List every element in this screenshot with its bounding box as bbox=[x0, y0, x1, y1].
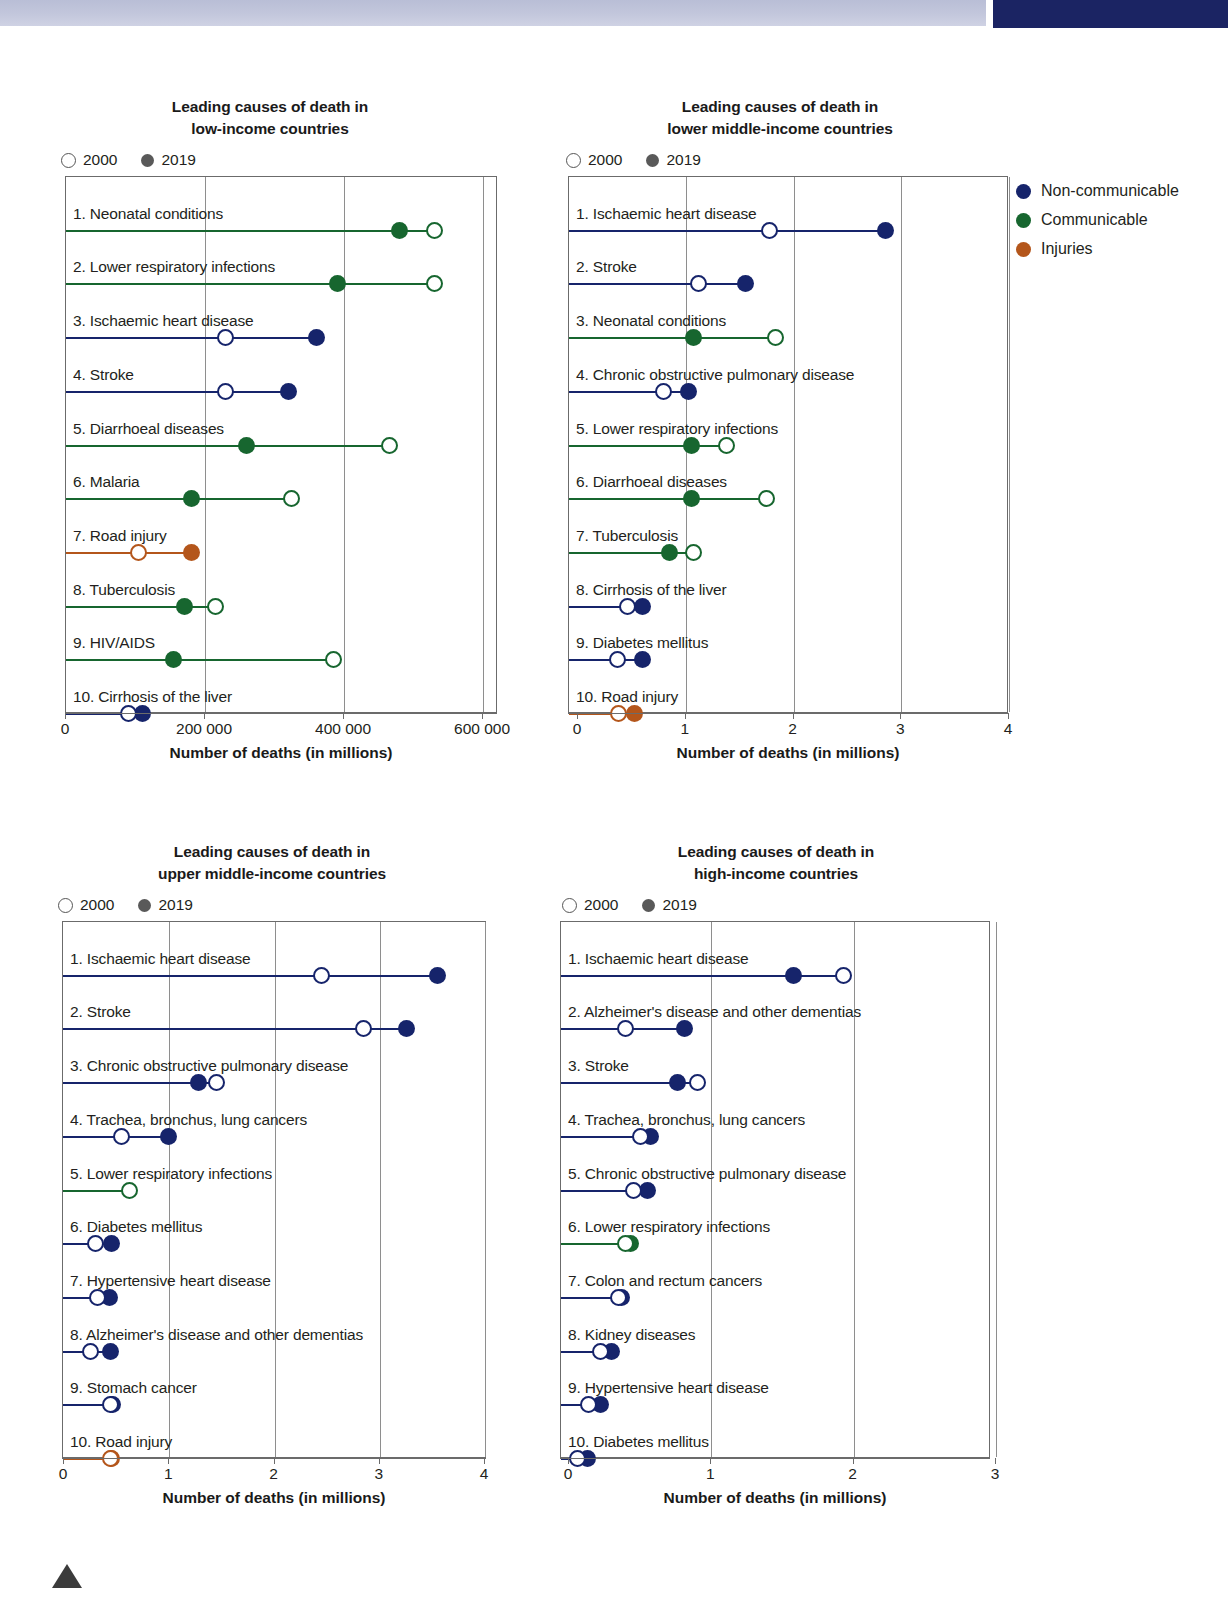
legend-color-dot-icon bbox=[1016, 184, 1031, 199]
datapoint-2000[interactable] bbox=[130, 544, 147, 561]
row-label: 5. Lower respiratory infections bbox=[70, 1165, 272, 1183]
datapoint-2000[interactable] bbox=[102, 1396, 119, 1413]
open-circle-icon bbox=[58, 898, 73, 913]
datapoint-2000[interactable] bbox=[217, 329, 234, 346]
row-label: 7. Road injury bbox=[73, 527, 167, 545]
datapoint-2019[interactable] bbox=[683, 437, 700, 454]
datapoint-2000[interactable] bbox=[718, 437, 735, 454]
chart-title-line-2: upper middle-income countries bbox=[52, 863, 492, 885]
datapoint-2019[interactable] bbox=[238, 437, 255, 454]
x-axis-tick bbox=[204, 713, 205, 719]
row-cause-label: Tuberculosis bbox=[90, 581, 176, 598]
year-legend-2000[interactable]: 2000 bbox=[566, 151, 622, 169]
datapoint-2000[interactable] bbox=[609, 651, 626, 668]
datapoint-2000[interactable] bbox=[82, 1343, 99, 1360]
row-rank: 5. bbox=[568, 1165, 581, 1182]
open-circle-icon bbox=[562, 898, 577, 913]
datapoint-2000[interactable] bbox=[767, 329, 784, 346]
datapoint-2000[interactable] bbox=[758, 490, 775, 507]
datapoint-2000[interactable] bbox=[313, 967, 330, 984]
datapoint-2019[interactable] bbox=[391, 222, 408, 239]
datapoint-2019[interactable] bbox=[676, 1020, 693, 1037]
datapoint-2000[interactable] bbox=[207, 598, 224, 615]
row-cause-label: Trachea, bronchus, lung cancers bbox=[585, 1111, 806, 1128]
datapoint-2019[interactable] bbox=[634, 598, 651, 615]
datapoint-2000[interactable] bbox=[655, 383, 672, 400]
datapoint-2000[interactable] bbox=[426, 222, 443, 239]
datapoint-2000[interactable] bbox=[761, 222, 778, 239]
x-axis-tick bbox=[65, 713, 66, 719]
datapoint-2019[interactable] bbox=[183, 490, 200, 507]
datapoint-2019[interactable] bbox=[165, 651, 182, 668]
year-legend-2000[interactable]: 2000 bbox=[58, 896, 114, 914]
datapoint-2019[interactable] bbox=[683, 490, 700, 507]
datapoint-2000[interactable] bbox=[355, 1020, 372, 1037]
datapoint-2019[interactable] bbox=[877, 222, 894, 239]
x-axis-tick-label: 4 bbox=[480, 1465, 489, 1483]
datapoint-2000[interactable] bbox=[632, 1128, 649, 1145]
year-legend-2019[interactable]: 2019 bbox=[138, 896, 192, 914]
year-legend-2019[interactable]: 2019 bbox=[646, 151, 700, 169]
datapoint-2019[interactable] bbox=[669, 1074, 686, 1091]
datapoint-2019[interactable] bbox=[183, 544, 200, 561]
legend-item-label: Non-communicable bbox=[1041, 182, 1179, 200]
datapoint-2019[interactable] bbox=[160, 1128, 177, 1145]
row-cause-label: Hypertensive heart disease bbox=[87, 1272, 271, 1289]
year-legend-2000[interactable]: 2000 bbox=[61, 151, 117, 169]
row-label: 10. Road injury bbox=[576, 688, 678, 706]
datapoint-2000[interactable] bbox=[625, 1182, 642, 1199]
row-rank: 10. bbox=[568, 1433, 589, 1450]
row-cause-label: Kidney diseases bbox=[585, 1326, 696, 1343]
datapoint-2019[interactable] bbox=[102, 1343, 119, 1360]
datapoint-2019[interactable] bbox=[429, 967, 446, 984]
row-cause-label: Alzheimer's disease and other dementias bbox=[86, 1326, 363, 1343]
datapoint-2019[interactable] bbox=[280, 383, 297, 400]
plot-area: 1. Neonatal conditions2. Lower respirato… bbox=[65, 176, 497, 713]
datapoint-2000[interactable] bbox=[283, 490, 300, 507]
x-axis-tick-label: 3 bbox=[991, 1465, 1000, 1483]
year-legend-2019[interactable]: 2019 bbox=[141, 151, 195, 169]
datapoint-2000[interactable] bbox=[217, 383, 234, 400]
chart-title: Leading causes of death inlower middle-i… bbox=[560, 96, 1000, 140]
filled-circle-icon bbox=[141, 154, 154, 167]
datapoint-2019[interactable] bbox=[190, 1074, 207, 1091]
row-label: 10. Road injury bbox=[70, 1433, 172, 1451]
datapoint-2019[interactable] bbox=[661, 544, 678, 561]
datapoint-2019[interactable] bbox=[308, 329, 325, 346]
row-label: 9. Diabetes mellitus bbox=[576, 634, 708, 652]
datapoint-2019[interactable] bbox=[685, 329, 702, 346]
x-axis-tick-label: 4 bbox=[1004, 720, 1013, 738]
datapoint-2000[interactable] bbox=[685, 544, 702, 561]
datapoint-2000[interactable] bbox=[617, 1020, 634, 1037]
datapoint-2019[interactable] bbox=[785, 967, 802, 984]
datapoint-2000[interactable] bbox=[835, 967, 852, 984]
datapoint-2019[interactable] bbox=[329, 275, 346, 292]
datapoint-2000[interactable] bbox=[381, 437, 398, 454]
year-legend-2019[interactable]: 2019 bbox=[642, 896, 696, 914]
row-cause-label: Stomach cancer bbox=[87, 1379, 197, 1396]
datapoint-2019[interactable] bbox=[680, 383, 697, 400]
datapoint-2000[interactable] bbox=[592, 1343, 609, 1360]
row-label: 5. Chronic obstructive pulmonary disease bbox=[568, 1165, 846, 1183]
row-rank: 5. bbox=[70, 1165, 83, 1182]
datapoint-2000[interactable] bbox=[208, 1074, 225, 1091]
row-connector-line bbox=[569, 230, 885, 232]
datapoint-2019[interactable] bbox=[634, 651, 651, 668]
row-label: 8. Tuberculosis bbox=[73, 581, 175, 599]
datapoint-2000[interactable] bbox=[426, 275, 443, 292]
datapoint-2019[interactable] bbox=[103, 1235, 120, 1252]
datapoint-2000[interactable] bbox=[113, 1128, 130, 1145]
datapoint-2000[interactable] bbox=[689, 1074, 706, 1091]
datapoint-2000[interactable] bbox=[325, 651, 342, 668]
datapoint-2000[interactable] bbox=[619, 598, 636, 615]
datapoint-2019[interactable] bbox=[737, 275, 754, 292]
datapoint-2000[interactable] bbox=[121, 1182, 138, 1199]
datapoint-2000[interactable] bbox=[690, 275, 707, 292]
year-legend-2000[interactable]: 2000 bbox=[562, 896, 618, 914]
datapoint-2000[interactable] bbox=[87, 1235, 104, 1252]
row-rank: 10. bbox=[70, 1433, 91, 1450]
datapoint-2019[interactable] bbox=[398, 1020, 415, 1037]
datapoint-2019[interactable] bbox=[176, 598, 193, 615]
x-axis-tick-label: 1 bbox=[706, 1465, 715, 1483]
x-axis-tick-label: 1 bbox=[164, 1465, 173, 1483]
